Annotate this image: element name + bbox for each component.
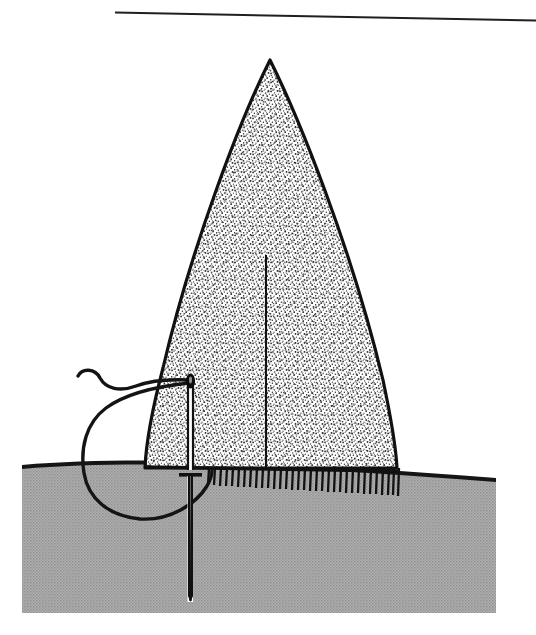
illustration-canvas: [0, 0, 536, 635]
top-divider-rule: [115, 12, 536, 22]
stippled-pointed-structure: [130, 50, 410, 480]
needle-eye: [186, 373, 195, 388]
figure-illustration: Black and white medical line drawing: a …: [0, 0, 536, 635]
tissue-bed: [22, 461, 496, 613]
